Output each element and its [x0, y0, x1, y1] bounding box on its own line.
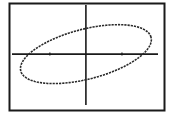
graph-screen	[0, 0, 169, 117]
graph-frame	[10, 4, 165, 111]
